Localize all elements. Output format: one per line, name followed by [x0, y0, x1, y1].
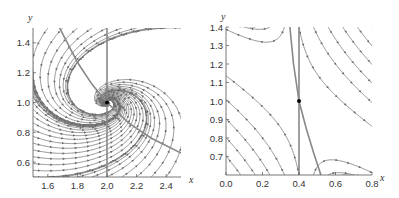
- x-tick-label: 0.4: [292, 178, 305, 189]
- y-axis-label: y: [27, 12, 33, 23]
- y-tick-label: 1.2: [17, 67, 30, 78]
- phase-portraits: 1.61.82.02.22.40.60.81.01.21.4xy0.00.20.…: [0, 0, 399, 198]
- y-tick-label: 0.6: [17, 157, 30, 168]
- phase-plot-2: 0.00.20.40.60.80.70.80.91.01.11.21.31.4x…: [210, 11, 385, 189]
- y-tick-label: 1.3: [210, 40, 223, 51]
- fixed-point: [297, 99, 301, 103]
- x-tick-label: 2.0: [100, 180, 113, 191]
- y-tick-label: 1.2: [210, 59, 223, 70]
- x-axis-label: x: [188, 174, 194, 185]
- phase-plot-1: 1.61.82.02.22.40.60.81.01.21.4xy: [17, 12, 194, 191]
- x-tick-label: 2.4: [160, 180, 173, 191]
- y-tick-label: 1.1: [210, 77, 223, 88]
- fixed-point: [105, 101, 109, 105]
- x-tick-label: 0.2: [256, 178, 269, 189]
- y-tick-label: 0.7: [210, 151, 223, 162]
- y-tick-label: 0.9: [210, 114, 223, 125]
- y-tick-label: 1.0: [17, 97, 30, 108]
- x-tick-label: 0.6: [329, 178, 342, 189]
- curved-nullcline: [290, 27, 321, 175]
- y-tick-label: 1.4: [210, 22, 223, 33]
- x-tick-label: 2.2: [130, 180, 143, 191]
- y-tick-label: 0.8: [17, 127, 30, 138]
- y-tick-label: 1.0: [210, 96, 223, 107]
- x-axis-label: x: [379, 172, 385, 183]
- x-tick-label: 1.6: [41, 180, 54, 191]
- x-tick-label: 1.8: [71, 180, 84, 191]
- x-tick-label: 0.0: [219, 178, 232, 189]
- y-tick-label: 1.4: [17, 37, 30, 48]
- y-axis-label: y: [220, 11, 226, 22]
- y-tick-label: 0.8: [210, 133, 223, 144]
- x-tick-label: 0.8: [365, 178, 378, 189]
